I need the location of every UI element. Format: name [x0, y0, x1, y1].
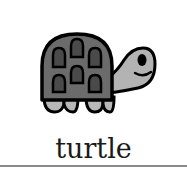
turtle-icon — [0, 0, 187, 125]
flashcard: turtle — [0, 0, 187, 176]
shell-scutes — [53, 39, 101, 92]
turtle-shell — [42, 34, 112, 100]
turtle-head — [108, 48, 155, 93]
turtle-eye — [138, 54, 147, 66]
card-label: turtle — [0, 134, 187, 164]
divider-line — [0, 165, 187, 167]
